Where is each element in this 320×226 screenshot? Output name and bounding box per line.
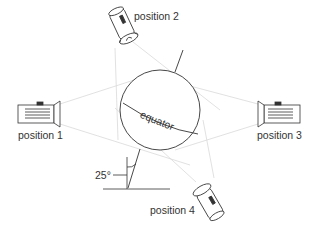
axis-south <box>128 149 140 188</box>
tilt-angle-label: 25° <box>95 169 111 181</box>
flashlight-position-3 <box>258 101 300 127</box>
axis-north <box>175 50 183 72</box>
globe-circle <box>120 70 200 150</box>
flashlight-position-4 <box>191 181 227 223</box>
position-1-label: position 1 <box>18 129 63 141</box>
position-2-label: position 2 <box>134 10 179 22</box>
position-3-label: position 3 <box>257 129 302 141</box>
flashlight-position-1 <box>18 101 60 127</box>
position-4-label: position 4 <box>150 204 195 216</box>
diagram-canvas <box>0 0 320 226</box>
earth-seasons-diagram: position 2 position 1 position 3 positio… <box>0 0 320 226</box>
